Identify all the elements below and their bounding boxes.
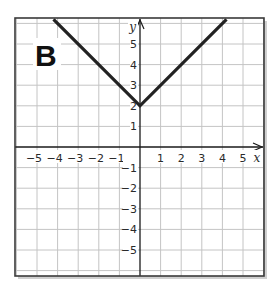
y-tick-label: −1: [121, 162, 137, 175]
y-tick-label: −3: [121, 203, 137, 216]
y-axis-label: y: [128, 20, 136, 34]
x-tick-label: 1: [157, 152, 164, 165]
x-tick-label: −2: [88, 152, 104, 165]
y-tick-label: 3: [130, 79, 137, 92]
x-tick-label: 5: [240, 152, 247, 165]
x-tick-label: 3: [198, 152, 205, 165]
y-tick-label: −2: [121, 182, 137, 195]
panel-label: B: [35, 39, 57, 72]
y-tick-label: −4: [121, 223, 137, 236]
x-axis-label: x: [254, 151, 261, 165]
x-tick-label: −5: [26, 152, 42, 165]
coordinate-graph: −5−4−3−2−11234554321−1−2−3−4−5yx B: [0, 0, 279, 293]
x-tick-label: 2: [178, 152, 185, 165]
y-tick-label: 1: [130, 120, 137, 133]
x-tick-label: −3: [67, 152, 83, 165]
y-tick-label: 5: [130, 38, 137, 51]
panel-label-box: B: [33, 38, 61, 72]
x-tick-label: −4: [46, 152, 62, 165]
x-tick-label: 4: [219, 152, 226, 165]
y-tick-label: 4: [130, 59, 137, 72]
y-tick-label: −5: [121, 244, 137, 257]
